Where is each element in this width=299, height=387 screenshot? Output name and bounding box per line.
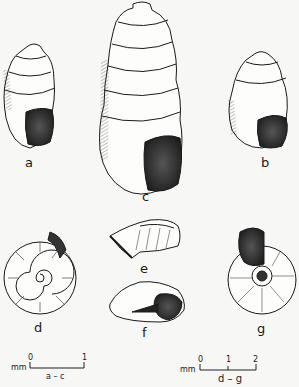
shell-e-drawing <box>110 220 180 258</box>
scale-tick-0-a-c: 0 <box>28 354 33 362</box>
scale-unit-d-g: mm <box>180 366 196 374</box>
label-d: d <box>34 321 42 334</box>
scale-tick-2-d-g: 2 <box>253 356 258 364</box>
shell-b-drawing <box>229 52 287 148</box>
shell-d-drawing <box>4 232 76 314</box>
shell-a-drawing <box>4 44 55 148</box>
scale-tick-0-d-g: 0 <box>198 356 203 364</box>
label-f: f <box>142 326 147 339</box>
scale-tick-1-a-c: 1 <box>82 354 87 362</box>
shell-figure-plate: a b c d e f g mm 0 1 a – c mm 0 1 2 d – … <box>0 0 299 387</box>
scale-caption-d-g: d – g <box>218 375 242 383</box>
scale-caption-a-c: a – c <box>46 373 64 381</box>
label-g: g <box>257 322 265 335</box>
scale-unit-a-c: mm <box>11 364 27 372</box>
shell-drawings <box>0 0 299 387</box>
shell-f-drawing <box>110 282 185 322</box>
scale-tick-1-d-g: 1 <box>226 356 231 364</box>
label-c: c <box>142 190 149 203</box>
shell-c-drawing <box>100 2 183 194</box>
label-b: b <box>261 156 269 169</box>
scale-bar-d-g <box>200 364 256 370</box>
shell-g-drawing <box>228 228 296 314</box>
scale-bar-a-c <box>30 362 84 368</box>
label-a: a <box>25 156 33 169</box>
label-e: e <box>140 262 148 275</box>
